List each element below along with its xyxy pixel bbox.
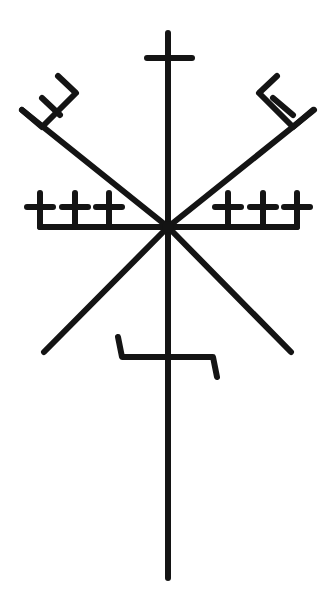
stave-symbol-icon [0, 0, 335, 611]
stave-symbol-canvas: Icelandic magical stave symbol drawn in … [0, 0, 335, 611]
lower-left-arm [44, 227, 168, 352]
center-hub [162, 221, 174, 233]
lower-right-arm [168, 227, 291, 352]
right-trident-prong-1 [259, 76, 313, 127]
